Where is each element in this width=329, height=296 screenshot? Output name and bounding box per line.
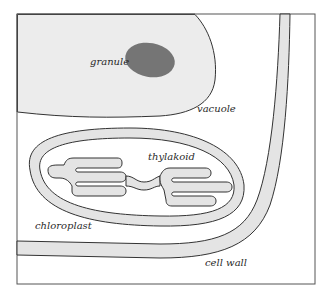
label-granule: granule — [90, 56, 129, 67]
label-vacuole: vacuole — [197, 103, 236, 114]
label-chloroplast: chloroplast — [35, 220, 93, 231]
label-thylakoid: thylakoid — [148, 151, 195, 162]
plant-cell-diagram: granule vacuole thylakoid chloroplast ce… — [0, 0, 329, 296]
label-cell-wall: cell wall — [205, 257, 247, 268]
